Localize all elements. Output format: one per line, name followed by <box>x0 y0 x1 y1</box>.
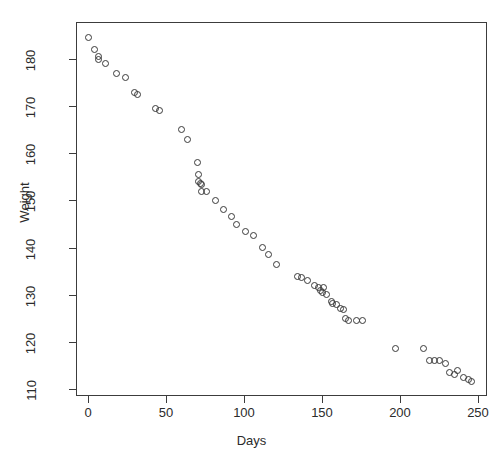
x-axis-tick <box>322 396 323 403</box>
y-axis-tick-label-text: 110 <box>23 380 38 401</box>
x-axis-tick-label: 100 <box>219 405 269 420</box>
y-axis-tick <box>69 389 76 390</box>
x-axis-tick <box>166 396 167 403</box>
x-axis-label: Days <box>0 433 503 448</box>
y-axis-tick-label: 120 <box>0 334 62 350</box>
x-axis-tick-label: 150 <box>297 405 347 420</box>
y-axis-tick <box>69 248 76 249</box>
x-axis-tick <box>400 396 401 403</box>
y-axis-tick <box>69 342 76 343</box>
y-axis-tick-label: 110 <box>0 381 62 397</box>
y-axis-tick <box>69 106 76 107</box>
x-axis-tick-label: 50 <box>141 405 191 420</box>
y-axis-tick-label-text: 120 <box>23 332 38 354</box>
x-axis-tick-label: 0 <box>63 405 113 420</box>
x-axis-tick-label: 200 <box>375 405 425 420</box>
scatter-plot-figure: 110120130140150160170180050100150200250 … <box>0 0 503 467</box>
x-axis-tick-label: 250 <box>453 405 503 420</box>
y-axis-tick-label-text: 180 <box>23 50 38 72</box>
x-axis-tick <box>478 396 479 403</box>
y-axis-tick-label: 180 <box>0 51 62 67</box>
y-axis-label: Weight <box>17 103 32 303</box>
plot-frame <box>76 22 487 396</box>
y-axis-tick <box>69 295 76 296</box>
y-axis-tick <box>69 59 76 60</box>
y-axis-tick <box>69 200 76 201</box>
y-axis-tick <box>69 153 76 154</box>
x-axis-tick <box>244 396 245 403</box>
x-axis-tick <box>88 396 89 403</box>
